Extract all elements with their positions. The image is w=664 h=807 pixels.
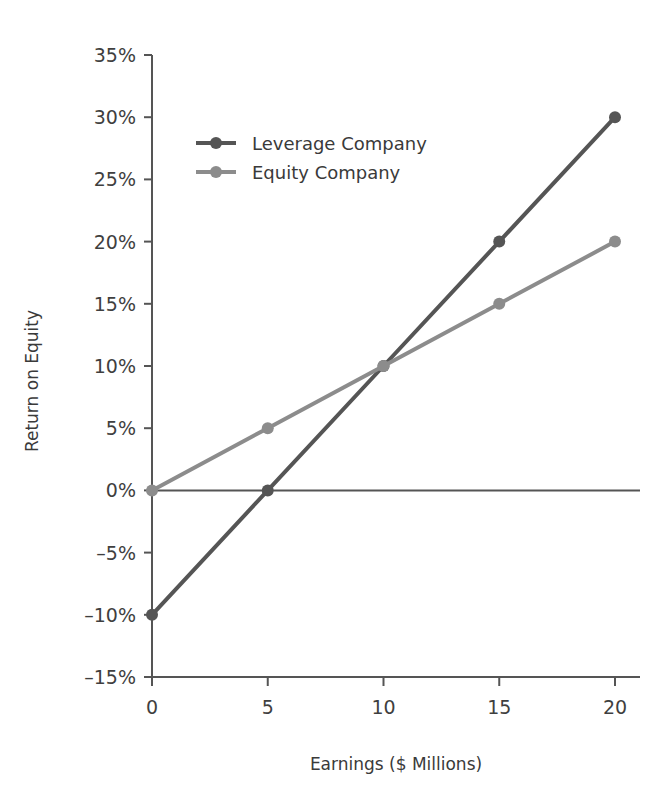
- legend-label: Leverage Company: [252, 133, 427, 154]
- x-tick-label: 5: [262, 696, 274, 718]
- x-axis-tick-labels: 05101520: [146, 696, 627, 718]
- y-tick-label: 0%: [106, 479, 136, 501]
- legend-item-1: Leverage Company: [196, 133, 427, 154]
- legend-swatch-marker: [210, 137, 222, 149]
- data-series-layer: [146, 111, 621, 621]
- y-tick-label: 10%: [94, 355, 136, 377]
- data-point: [262, 422, 274, 434]
- y-tick-label: –15%: [84, 666, 136, 688]
- data-point: [146, 484, 158, 496]
- y-axis-tick-labels: 35%30%25%20%15%10%5%0%–5%–10%–15%: [84, 44, 136, 688]
- x-tick-label: 10: [371, 696, 395, 718]
- line-chart: 35%30%25%20%15%10%5%0%–5%–10%–15% 051015…: [0, 0, 664, 807]
- y-tick-label: –10%: [84, 604, 136, 626]
- y-tick-label: –5%: [96, 542, 136, 564]
- x-axis-title: Earnings ($ Millions): [310, 754, 482, 774]
- y-tick-label: 30%: [94, 106, 136, 128]
- y-axis-ticks: [144, 55, 152, 677]
- data-point: [146, 609, 158, 621]
- chart-legend: Leverage CompanyEquity Company: [196, 133, 427, 183]
- y-tick-label: 35%: [94, 44, 136, 66]
- data-point: [262, 484, 274, 496]
- data-point: [493, 236, 505, 248]
- y-tick-label: 25%: [94, 168, 136, 190]
- data-point: [609, 236, 621, 248]
- x-tick-label: 20: [603, 696, 627, 718]
- x-tick-label: 15: [487, 696, 511, 718]
- chart-container: 35%30%25%20%15%10%5%0%–5%–10%–15% 051015…: [0, 0, 664, 807]
- y-tick-label: 5%: [106, 417, 136, 439]
- data-point: [378, 360, 390, 372]
- y-tick-label: 15%: [94, 293, 136, 315]
- series-2: [146, 236, 621, 497]
- y-axis-title: Return on Equity: [22, 310, 42, 452]
- legend-item-2: Equity Company: [196, 162, 401, 183]
- data-point: [609, 111, 621, 123]
- legend-swatch-marker: [210, 166, 222, 178]
- data-point: [493, 298, 505, 310]
- legend-label: Equity Company: [252, 162, 401, 183]
- x-tick-label: 0: [146, 696, 158, 718]
- y-tick-label: 20%: [94, 231, 136, 253]
- x-axis-ticks: [152, 677, 615, 686]
